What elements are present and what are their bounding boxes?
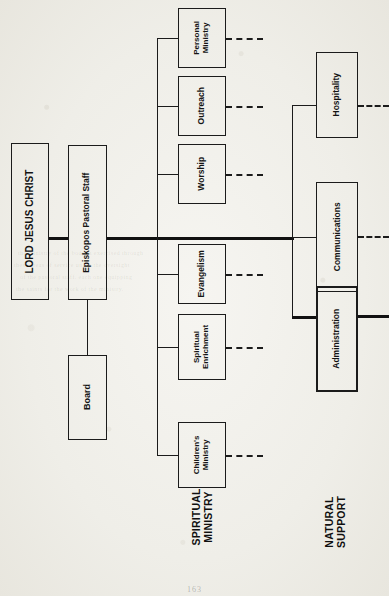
stub-evangelism [226,274,263,276]
node-board[interactable]: Board [68,355,107,440]
stub-communications [358,236,389,238]
section-caption-spiritual-ministry-line2: MINISTRY [202,491,214,542]
connector-spine-to-hospitality [292,105,317,106]
node-episkopos-pastoral-staff-label: Episkopos Pastoral Staff [83,172,93,272]
node-outreach-label: Outreach [197,87,207,124]
node-spiritual-enrichment-label-line2: Enrichment [201,325,210,369]
stub-hospitality [358,105,389,107]
connector-spine-to-administration [292,316,317,319]
connector-spine-to-evangelism [157,274,179,275]
node-administration-label: Administration [332,309,342,369]
node-personal-ministry-label-line1: Personal [192,21,201,55]
stub-personal-ministry [226,38,263,40]
node-worship-label: Worship [197,157,207,191]
stub-administration [358,315,389,318]
node-childrens-ministry-label-line1: Children's [192,436,201,475]
page-number: 163 [0,585,389,594]
connector-spine-to-worship [157,174,179,175]
connector-spine-to-outreach [157,106,179,107]
node-lord-jesus-christ-label: LORD JESUS CHRIST [24,170,35,274]
node-worship[interactable]: Worship [178,144,226,204]
org-chart: LORD JESUS CHRIST Episkopos Pastoral Sta… [0,0,389,596]
section-caption-spiritual-ministry-line1: SPIRITUAL [190,488,202,545]
connector-episkopos-to-board [87,300,88,355]
node-spiritual-enrichment[interactable]: SpiritualEnrichment [178,314,226,380]
stub-worship [226,174,263,176]
node-administration[interactable]: Administration [316,286,358,392]
node-personal-ministry-label: PersonalMinistry [193,21,211,55]
section-caption-spiritual-ministry: SPIRITUAL MINISTRY [191,487,215,547]
node-spiritual-enrichment-label: SpiritualEnrichment [193,325,211,369]
node-communications[interactable]: Communications [316,182,358,292]
connector-spine-to-personal-ministry [157,38,179,39]
natural-support-spine [292,105,293,318]
node-hospitality-label: Hospitality [332,73,342,116]
section-caption-natural-support: NATURAL SUPPORT [324,492,348,552]
node-outreach[interactable]: Outreach [178,76,226,136]
section-caption-natural-support-line1: NATURAL [323,496,335,547]
node-communications-label: Communications [332,203,342,272]
stub-childrens-ministry [226,455,263,457]
node-board-label: Board [82,384,92,410]
node-spiritual-enrichment-label-line1: Spiritual [192,331,201,363]
stub-spiritual-enrichment [226,347,263,349]
node-lord-jesus-christ[interactable]: LORD JESUS CHRIST [11,143,49,300]
spiritual-ministry-spine [157,38,158,456]
node-evangelism[interactable]: Evangelism [178,244,226,304]
connector-spine-to-communications [292,237,317,238]
node-hospitality[interactable]: Hospitality [316,52,358,138]
node-episkopos-pastoral-staff[interactable]: Episkopos Pastoral Staff [68,145,107,300]
connector-lord-to-episkopos [49,237,68,240]
node-personal-ministry[interactable]: PersonalMinistry [178,8,226,68]
connector-spine-to-childrens-ministry [157,455,179,456]
node-childrens-ministry[interactable]: Children'sMinistry [178,422,226,488]
node-evangelism-label: Evangelism [197,250,207,297]
node-childrens-ministry-label-line2: Ministry [201,440,210,471]
node-childrens-ministry-label: Children'sMinistry [193,436,211,475]
main-trunk-line [107,237,294,240]
stub-outreach [226,106,263,108]
section-caption-natural-support-line2: SUPPORT [335,496,347,548]
connector-spine-to-spiritual-enrichment [157,347,179,348]
node-personal-ministry-label-line2: Ministry [201,23,210,54]
